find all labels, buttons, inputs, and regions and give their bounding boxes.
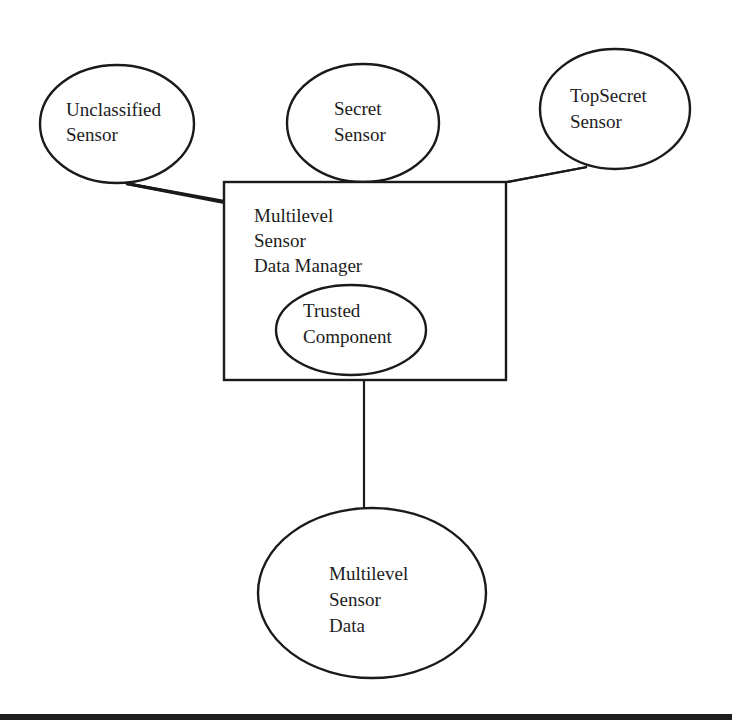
unclassified-sensor-label-2: Sensor [66, 124, 118, 145]
topsecret-sensor-label-2: Sensor [570, 111, 622, 132]
link-unclassified [126, 183, 224, 202]
data-manager-label-3: Data Manager [254, 255, 363, 276]
data-manager-node: Multilevel Sensor Data Manager Trusted C… [224, 182, 506, 380]
sensor-data-label-2: Sensor [329, 589, 381, 610]
data-manager-label-2: Sensor [254, 230, 306, 251]
topsecret-sensor-node: TopSecret Sensor [540, 49, 690, 169]
bottom-rule [0, 714, 732, 720]
trusted-component-label-2: Component [303, 326, 392, 347]
architecture-diagram: Unclassified Sensor Secret Sensor TopSec… [0, 0, 732, 723]
topsecret-sensor-label-1: TopSecret [570, 85, 647, 106]
data-manager-label-1: Multilevel [254, 205, 333, 226]
sensor-data-label-1: Multilevel [329, 563, 408, 584]
unclassified-sensor-node: Unclassified Sensor [40, 65, 194, 183]
secret-sensor-node: Secret Sensor [287, 64, 439, 182]
secret-sensor-label-1: Secret [334, 98, 382, 119]
secret-sensor-label-2: Sensor [334, 124, 386, 145]
sensor-data-node: Multilevel Sensor Data [258, 508, 486, 678]
link-topsecret [507, 167, 587, 182]
trusted-component-label-1: Trusted [303, 300, 361, 321]
sensor-data-label-3: Data [329, 615, 365, 636]
trusted-component-node: Trusted Component [276, 285, 426, 375]
unclassified-sensor-label-1: Unclassified [66, 99, 161, 120]
